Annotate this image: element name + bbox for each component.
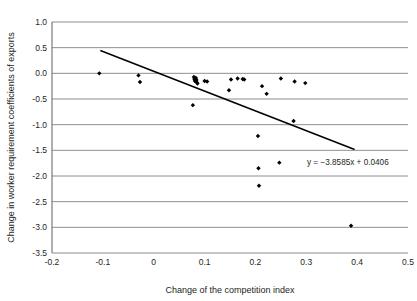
data-point xyxy=(97,71,101,75)
y-tick-label: 0.5 xyxy=(35,43,47,53)
data-point xyxy=(138,80,142,84)
y-axis-title: Change in worker requirement coefficient… xyxy=(6,32,16,243)
y-tick-label: 1.0 xyxy=(35,17,47,27)
data-point xyxy=(279,76,283,80)
data-point xyxy=(229,77,233,81)
x-tick-label: 0.1 xyxy=(199,257,211,267)
data-point xyxy=(227,88,231,92)
x-tick-label: -0.2 xyxy=(45,257,60,267)
data-point xyxy=(277,160,281,164)
data-point xyxy=(257,184,261,188)
x-tick-label: 0.5 xyxy=(402,257,414,267)
data-point xyxy=(136,73,140,77)
x-tick-label: 0.4 xyxy=(351,257,363,267)
x-axis-title: Change of the competition index xyxy=(165,285,295,295)
x-tick-label: 0.3 xyxy=(300,257,312,267)
data-point xyxy=(260,84,264,88)
chart-container: 1.00.50.0-0.5-1.0-1.5-2.0-2.5-3.0-3.5-0.… xyxy=(0,0,417,301)
regression-equation-label: y = −3.8585x + 0.0406 xyxy=(307,158,389,167)
trendline xyxy=(100,50,354,149)
data-point xyxy=(256,134,260,138)
data-point xyxy=(256,166,260,170)
data-point xyxy=(303,81,307,85)
data-point xyxy=(191,103,195,107)
y-tick-label: -1.5 xyxy=(32,145,47,155)
x-tick-label: -0.1 xyxy=(96,257,111,267)
y-tick-label: -0.5 xyxy=(32,94,47,104)
y-tick-label: -3.0 xyxy=(32,222,47,232)
x-tick-label: 0.2 xyxy=(250,257,262,267)
y-tick-label: -2.5 xyxy=(32,197,47,207)
y-tick-label: 0.0 xyxy=(35,68,47,78)
data-point xyxy=(264,92,268,96)
y-tick-label: -2.0 xyxy=(32,171,47,181)
data-point xyxy=(291,119,295,123)
data-point xyxy=(292,79,296,83)
x-tick-label: 0 xyxy=(151,257,156,267)
data-point xyxy=(235,76,239,80)
y-tick-label: -1.0 xyxy=(32,120,47,130)
scatter-plot: 1.00.50.0-0.5-1.0-1.5-2.0-2.5-3.0-3.5-0.… xyxy=(0,0,417,301)
